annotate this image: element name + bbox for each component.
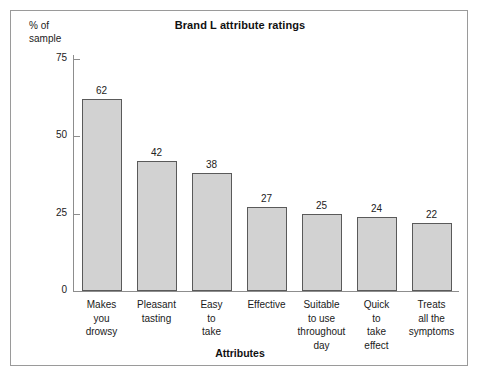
bar-value-label: 22 bbox=[412, 209, 452, 220]
bar-value-label: 62 bbox=[82, 85, 122, 96]
bar-value-label: 27 bbox=[247, 193, 287, 204]
bar[interactable] bbox=[192, 173, 232, 291]
bar-value-label: 38 bbox=[192, 159, 232, 170]
bar-value-label: 25 bbox=[302, 200, 342, 211]
bar[interactable] bbox=[82, 99, 122, 291]
y-axis-tick: 25 bbox=[11, 214, 73, 215]
bar[interactable] bbox=[137, 161, 177, 291]
y-axis-tick: 50 bbox=[11, 136, 73, 137]
y-axis-tick-mark bbox=[73, 291, 80, 292]
x-axis-category-label: Easy to take bbox=[181, 298, 243, 339]
x-axis-category-label: Pleasant tasting bbox=[126, 298, 188, 325]
bar-value-label: 42 bbox=[137, 147, 177, 158]
y-axis-tick: 0 bbox=[11, 291, 73, 292]
y-axis-tick-mark bbox=[73, 59, 80, 60]
x-axis-category-label: Effective bbox=[236, 298, 298, 312]
x-axis-category-label: Makes you drowsy bbox=[71, 298, 133, 339]
x-axis-category-label: Suitable to use throughout day bbox=[291, 298, 353, 352]
y-axis-tick: 75 bbox=[11, 59, 73, 60]
x-axis-line bbox=[73, 291, 459, 292]
bar[interactable] bbox=[247, 207, 287, 291]
bar-value-label: 24 bbox=[357, 203, 397, 214]
y-axis-tick-label: 75 bbox=[29, 52, 67, 63]
y-axis-tick-mark bbox=[73, 136, 80, 137]
bar[interactable] bbox=[357, 217, 397, 291]
y-axis-tick-label: 25 bbox=[29, 207, 67, 218]
y-axis-line bbox=[73, 55, 74, 292]
bar[interactable] bbox=[302, 214, 342, 291]
plot-area: 025507562Makes you drowsy42Pleasant tast… bbox=[11, 11, 469, 367]
y-axis-tick-mark bbox=[73, 214, 80, 215]
x-axis-category-label: Treats all the symptoms bbox=[401, 298, 463, 339]
bar[interactable] bbox=[412, 223, 452, 291]
y-axis-tick-label: 50 bbox=[29, 129, 67, 140]
y-axis-tick-label: 0 bbox=[29, 284, 67, 295]
x-axis-category-label: Quick to take effect bbox=[346, 298, 408, 352]
chart-frame: Brand L attribute ratings % of sample 02… bbox=[10, 10, 468, 366]
x-axis-title: Attributes bbox=[11, 347, 469, 359]
